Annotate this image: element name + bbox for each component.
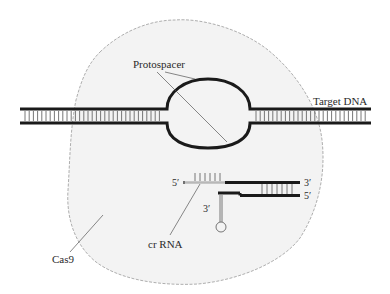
protospacer-label: Protospacer <box>133 58 185 70</box>
crrna-label: cr RNA <box>148 238 183 250</box>
tracrrna-3prime-label: 3′ <box>203 203 210 214</box>
crrna-3prime-label: 3′ <box>304 177 311 188</box>
cas9-label: Cas9 <box>52 253 75 265</box>
crrna-5prime-label: 5′ <box>172 177 179 188</box>
target-dna-label: Target DNA <box>313 95 367 107</box>
cas9-protein-blob <box>68 20 323 285</box>
tracrrna-5prime-label: 5′ <box>304 190 311 201</box>
crispr-cas9-diagram: Protospacer Target DNA <box>0 0 390 294</box>
